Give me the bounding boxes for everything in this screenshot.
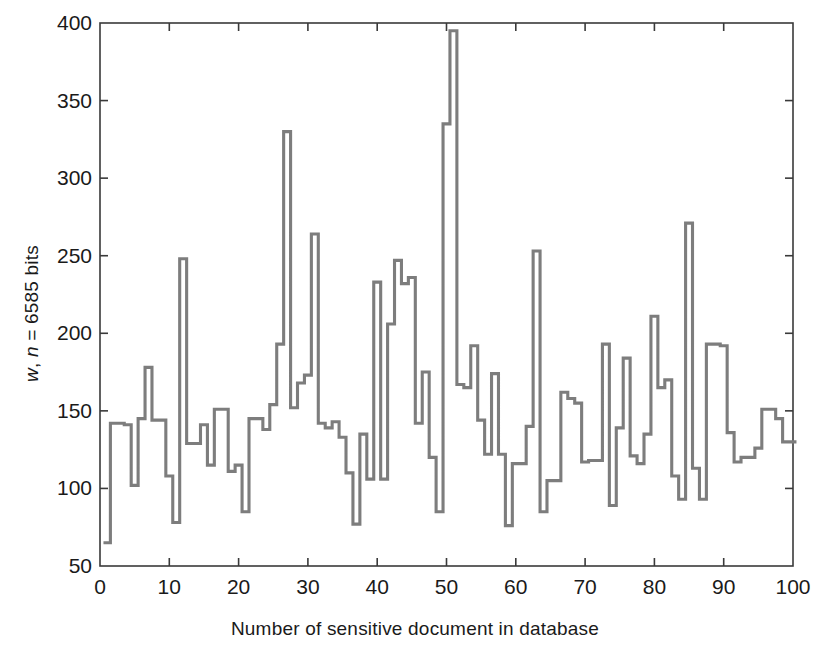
- plot-area: [0, 0, 830, 660]
- data-series-stairs: [103, 31, 796, 543]
- x-axis-title: Number of sensitive document in database: [0, 618, 830, 640]
- figure-chart: w, n = 6585 bits 50100150200250300350400…: [0, 0, 830, 660]
- plot-box-border: [100, 23, 793, 566]
